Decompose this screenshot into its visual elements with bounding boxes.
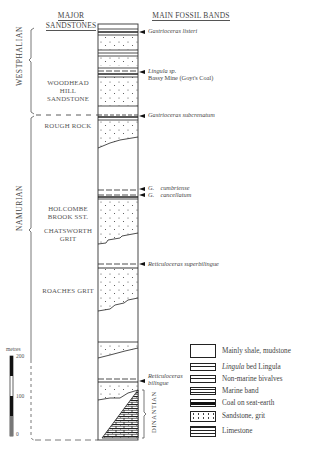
legend-item-nonmarine: Non-marine bivalves [190,373,282,385]
westphalian-bracket [29,28,34,114]
legend-item-lingula: Lingula bed Lingula [190,361,281,373]
limestone-pattern-icon [190,426,216,437]
scale-tick-100: 100 [16,393,24,399]
arrow-cumbriense [139,187,145,191]
scale-tick-200: 200 [16,353,24,359]
arrow-lingula [139,70,145,74]
arrow-superbilingue [139,262,145,266]
scale-unit-label: metres [6,346,21,352]
fossil-superbilingue: Reticuloceras superbilingue [148,260,219,267]
legend-item-shale: Mainly shale, mudstone [190,343,291,359]
sandstone-rough-rock: ROUGH ROCK [38,122,98,130]
legend-item-marine: Marine band [190,385,259,397]
sandstone-roaches-grit: ROACHES GRIT [36,287,100,295]
coal-pattern-icon [190,399,216,407]
scale-tick-0: 0 [16,431,19,437]
arrow-subcrenatum [139,114,145,118]
lingula-pattern-icon [190,363,216,371]
nonmarine-pattern-icon [190,375,216,383]
legend-item-sandstone: Sandstone, grit [190,409,265,423]
scale-bar [10,356,13,436]
fossil-bilingue: Reticuloceras bilingue [148,372,183,386]
namurian-bracket [29,116,98,440]
marine-pattern-icon [190,387,216,395]
legend-item-coal: Coal on seat-earth [190,397,274,409]
fossil-subcrenatum: Gastrioceras subcrenatum [148,111,215,118]
arrow-listeri [139,30,145,34]
legend-item-limestone: Limestone [190,424,252,438]
sandstone-pattern-icon [190,411,216,422]
fossil-cancellatum: G. cancellatum [148,191,191,198]
sandstone-woodhead-hill: WOODHEAD HILL SANDSTONE [38,79,98,103]
sandstone-chatsworth-grit: CHATSWORTH GRIT [38,227,98,243]
legend: Mainly shale, mudstone Lingula bed Lingu… [190,343,309,443]
fossil-cumbriense: G. cumbriense [148,184,189,191]
shale-pattern-icon [190,344,216,358]
sandstone-holcombe-brook: HOLCOMBE BROOK SST. [38,205,98,221]
fossil-lingula: Lingula sp. Bassy Mine (Goyt's Coal) [148,67,213,81]
fossil-listeri: Gastrioceras listeri [148,27,197,34]
arrow-bilingue [139,379,145,383]
arrow-cancellatum [139,193,145,197]
